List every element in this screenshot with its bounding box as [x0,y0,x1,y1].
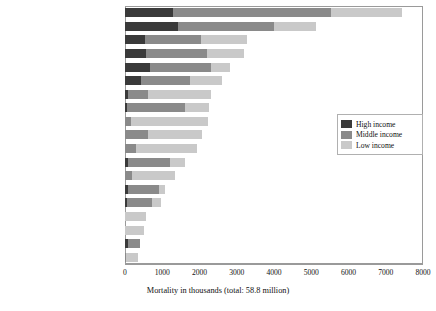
stacked-bar [125,87,211,101]
bar-segment-mid [128,239,140,248]
legend: High income Middle income Low income [337,114,423,155]
x-tick-label: 1000 [155,268,170,277]
bar-row: Tobacco use [0,20,436,34]
bar-row: Low fruit and vegetable intake [0,155,436,169]
x-axis-title: Mortality in thousands (total: 58.8 mill… [0,286,436,295]
legend-label: Low income [356,141,394,150]
legend-swatch-low-income [341,141,352,149]
bar-segment-low [148,90,211,99]
bar-row: Overweight and obesity [0,60,436,74]
bar-segment-low [125,212,146,221]
bar-segment-high [125,35,145,44]
bar-segment-mid [146,49,207,58]
bar-segment-low [201,35,247,44]
bar-segment-mid [128,158,170,167]
bar-row: Iron deficiency [0,250,436,264]
bar-segment-low [190,76,222,85]
bar-segment-low [125,226,144,235]
bar-row: Suboptimal breastfeeding [0,169,436,183]
stacked-bar [125,250,138,264]
stacked-bar [125,155,185,169]
bar-row: High blood glucose [0,33,436,47]
stacked-bar [125,237,140,251]
legend-swatch-middle-income [341,131,352,139]
legend-label: High income [356,120,395,129]
stacked-bar [125,169,175,183]
bar-segment-low [131,117,208,126]
bar-segment-low [185,103,209,112]
bar-segment-mid [128,90,148,99]
bar-segment-mid [141,76,190,85]
bar-segment-low [211,63,230,72]
bar-row: Zinc deficiency [0,223,436,237]
bar-row: High cholesterol [0,74,436,88]
stacked-bar [125,223,144,237]
bar-row: Occupational risks [0,196,436,210]
bar-row: Physical inactivity [0,47,436,61]
bar-segment-mid [125,144,136,153]
bar-segment-low [136,144,197,153]
x-tick-label: 4000 [266,268,281,277]
bar-segment-high [125,49,146,58]
stacked-bar [125,6,402,20]
bar-row: High blood pressure [0,6,436,20]
stacked-bar [125,128,202,142]
stacked-bar [125,142,197,156]
bar-segment-low [274,22,316,31]
stacked-bar [125,196,161,210]
bar-segment-mid [128,185,159,194]
bar-row: Unsafe health-care injections [0,237,436,251]
bar-row: Urban outdoor air pollution [0,183,436,197]
bar-row: Vitamin A deficiency [0,210,436,224]
bar-segment-low [207,49,244,58]
bar-row: Unsafe sex [0,87,436,101]
bar-segment-mid [127,103,185,112]
stacked-bar [125,101,209,115]
mortality-risk-factors-chart: High blood pressureTobacco useHigh blood… [0,0,436,311]
x-tick-label: 8000 [415,268,430,277]
stacked-bar [125,20,316,34]
x-tick-label: 7000 [378,268,393,277]
bar-segment-high [125,8,173,17]
stacked-bar [125,115,208,129]
legend-label: Middle income [356,130,402,139]
stacked-bar [125,47,244,61]
bar-segment-low [148,130,202,139]
bar-segment-low [331,8,402,17]
bar-segment-mid [173,8,331,17]
bar-row: Alcohol use [0,101,436,115]
bar-segment-mid [178,22,274,31]
x-tick-label: 3000 [229,268,244,277]
bar-segment-mid [150,63,211,72]
bar-segment-mid [127,198,152,207]
x-axis [125,264,423,266]
stacked-bar [125,210,146,224]
bar-segment-mid [125,130,148,139]
stacked-bar [125,60,230,74]
bar-segment-low [159,185,165,194]
legend-item[interactable]: Low income [341,141,418,150]
bar-segment-low [126,253,138,262]
bar-segment-low [132,171,175,180]
bar-segment-high [125,76,141,85]
x-tick-label: 6000 [341,268,356,277]
stacked-bar [125,183,165,197]
bar-segment-high [125,22,178,31]
legend-item[interactable]: High income [341,120,418,129]
x-tick-label: 0 [123,268,127,277]
bar-segment-low [152,198,161,207]
stacked-bar [125,33,247,47]
legend-swatch-high-income [341,120,352,128]
legend-item[interactable]: Middle income [341,130,418,139]
bar-segment-high [125,63,150,72]
stacked-bar [125,74,222,88]
bar-segment-mid [145,35,201,44]
bar-segment-low [170,158,185,167]
x-tick-label: 5000 [304,268,319,277]
x-tick-label: 2000 [192,268,207,277]
bar-segment-mid [125,171,132,180]
